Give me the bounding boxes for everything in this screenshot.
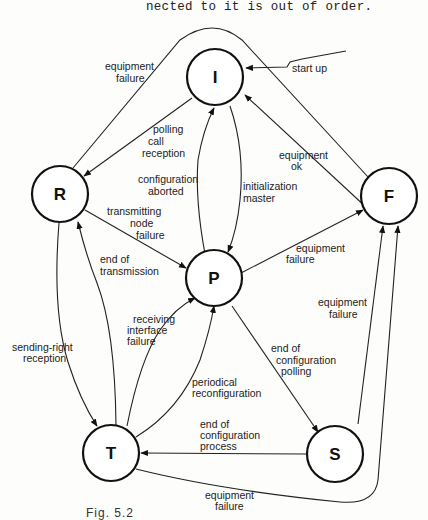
label-start-up: start up xyxy=(292,62,327,74)
edge-R-T-sending-right-reception xyxy=(57,223,97,426)
edge-I-R-polling-call-reception xyxy=(84,98,192,176)
svg-text:F: F xyxy=(384,187,394,206)
svg-text:R: R xyxy=(54,185,66,204)
label-periodical-reconfiguration: periodical reconfiguration xyxy=(192,376,262,399)
label-P-F-equipment-failure: equipment failure xyxy=(286,242,348,265)
svg-text:P: P xyxy=(208,269,219,288)
label-end-of-transmission: end of transmission xyxy=(100,253,159,277)
figure-caption: Fig. 5.2 xyxy=(86,506,134,520)
svg-text:I: I xyxy=(213,68,218,87)
edge-I-P-initialization-master xyxy=(228,106,241,252)
node-R: R xyxy=(32,166,88,222)
label-end-of-configuration-polling: end of configuration polling xyxy=(271,342,339,377)
node-T: T xyxy=(83,425,139,481)
label-T-F-equipment-failure: equipment failure xyxy=(205,489,257,512)
label-sending-right-reception: sending-right reception xyxy=(12,341,76,364)
label-polling-call-reception: polling call reception xyxy=(142,123,186,159)
svg-text:S: S xyxy=(329,445,340,464)
label-S-F-equipment-failure: equipment failure xyxy=(318,296,370,320)
label-configuration-aborted: configuration aborted xyxy=(138,173,201,197)
edge-S-T-end-of-configuration-process xyxy=(141,453,306,454)
label-end-of-configuration-process: end of configuration process xyxy=(200,418,263,452)
node-P: P xyxy=(186,250,242,306)
svg-text:T: T xyxy=(106,444,117,463)
label-R-F-equipment-failure: equipment failure xyxy=(105,60,157,84)
label-equipment-ok: equipment ok xyxy=(279,149,331,172)
edge-S-F-equipment-failure xyxy=(358,226,383,424)
label-receiving-interface-failure: receiving interface failure xyxy=(127,313,178,347)
node-F: F xyxy=(361,168,417,224)
node-S: S xyxy=(307,426,363,482)
node-I: I xyxy=(187,49,243,105)
label-transmitting-node-failure: transmitting node failure xyxy=(107,205,165,241)
label-initialization-master: initialization master xyxy=(243,180,300,204)
